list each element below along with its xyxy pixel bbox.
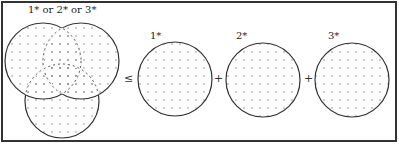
union-bound-diagram: 1* or 2* or 3* ≤ + + 1* 2* 3*	[0, 0, 399, 145]
set-2	[226, 43, 300, 117]
less-than-or-equal-symbol: ≤	[124, 73, 133, 84]
plus-symbol-2: +	[304, 73, 313, 84]
set-3-label: 3*	[328, 31, 339, 41]
diagram-graphic	[0, 0, 399, 145]
plus-symbol-1: +	[214, 73, 223, 84]
union-label: 1* or 2* or 3*	[28, 5, 96, 15]
set-3	[315, 43, 389, 117]
set-1-label: 1*	[150, 31, 161, 41]
venn-union	[5, 23, 119, 138]
set-1	[138, 42, 212, 116]
set-2-label: 2*	[236, 31, 247, 41]
